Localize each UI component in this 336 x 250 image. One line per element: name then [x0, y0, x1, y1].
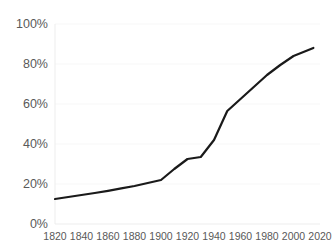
series-line-0	[55, 48, 313, 199]
y-tick-label: 80%	[0, 58, 48, 71]
y-tick-label: 20%	[0, 178, 48, 191]
data-series	[55, 48, 313, 199]
y-tick-label: 60%	[0, 98, 48, 111]
y-axis: 0%20%40%60%80%100%	[0, 0, 48, 250]
x-tick-label: 2020	[303, 231, 336, 242]
y-tick-label: 40%	[0, 138, 48, 151]
y-tick-label: 0%	[0, 218, 48, 231]
x-axis: 1820184018601880190019201940196019802000…	[0, 231, 330, 247]
y-tick-label: 100%	[0, 18, 48, 31]
